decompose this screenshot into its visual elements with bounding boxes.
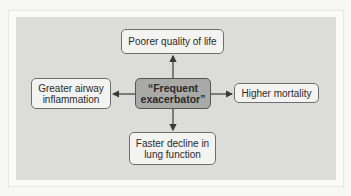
node-right-text: Higher mortality	[241, 88, 311, 99]
node-bottom-line2: lung function	[144, 149, 201, 160]
node-center-line2: exacerbator”	[141, 93, 206, 105]
node-left: Greater airway inflammation	[31, 78, 111, 109]
node-center-text: “Frequent exacerbator”	[141, 83, 206, 105]
node-top: Poorer quality of life	[121, 29, 224, 54]
node-left-text: Greater airway inflammation	[38, 83, 104, 105]
node-right: Higher mortality	[234, 83, 319, 103]
node-bottom-line1: Faster decline in	[136, 138, 209, 149]
node-bottom-text: Faster decline in lung function	[136, 138, 209, 160]
node-center: “Frequent exacerbator”	[135, 78, 211, 109]
node-bottom: Faster decline in lung function	[129, 132, 216, 165]
node-left-line2: inflammation	[43, 94, 100, 105]
node-top-text: Poorer quality of life	[128, 36, 216, 47]
node-left-line1: Greater airway	[38, 83, 104, 94]
